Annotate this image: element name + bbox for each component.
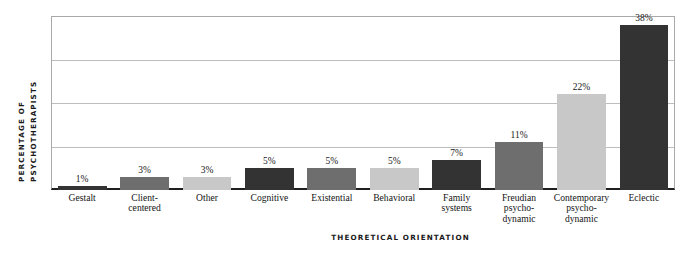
y-axis-title-line-2: PSYCHOTHERAPISTS xyxy=(29,81,38,182)
bars-layer: 1%3%3%5%5%5%7%11%22%38% xyxy=(51,16,675,190)
x-axis-tick-label: Freudianpsycho-dynamic xyxy=(488,193,550,224)
x-axis-tick-label-line: Behavioral xyxy=(364,193,424,203)
bar-group: 5% xyxy=(238,16,300,190)
bar xyxy=(307,168,356,190)
bar-group: 7% xyxy=(425,16,487,190)
x-axis-tick-label-line: Cognitive xyxy=(239,193,299,203)
x-axis-tick-label: Gestalt xyxy=(51,193,113,224)
bar-value-label: 5% xyxy=(301,156,363,167)
bar-group: 5% xyxy=(363,16,425,190)
x-axis-title: THEORETICAL ORIENTATION xyxy=(0,233,693,242)
x-axis-tick-labels: GestaltClient-centeredOtherCognitiveExis… xyxy=(51,193,675,224)
x-axis-tick-label-line: dynamic xyxy=(489,214,549,224)
bar-value-label: 1% xyxy=(51,174,113,185)
y-axis-title: PERCENTAGE OF PSYCHOTHERAPISTS xyxy=(0,0,52,200)
bar-value-label: 3% xyxy=(176,165,238,176)
bar xyxy=(557,94,606,190)
x-axis-tick-label-line: dynamic xyxy=(551,214,611,224)
bar-group: 3% xyxy=(176,16,238,190)
x-axis-tick-label-line: systems xyxy=(426,203,486,213)
bar-group: 1% xyxy=(51,16,113,190)
bar-value-label: 22% xyxy=(550,82,612,93)
bar-group: 11% xyxy=(488,16,550,190)
x-axis-tick-label: Behavioral xyxy=(363,193,425,224)
x-axis-tick-label-line: Gestalt xyxy=(52,193,112,203)
x-axis-tick-label: Cognitive xyxy=(238,193,300,224)
bar xyxy=(120,177,169,190)
bar-value-label: 11% xyxy=(488,130,550,141)
bar-value-label: 5% xyxy=(363,156,425,167)
bar-group: 3% xyxy=(113,16,175,190)
x-axis-tick-label-line: Eclectic xyxy=(614,193,674,203)
x-axis-tick-label: Other xyxy=(176,193,238,224)
bar-value-label: 7% xyxy=(425,148,487,159)
bar xyxy=(432,160,481,190)
y-axis-title-line-1: PERCENTAGE OF xyxy=(17,101,26,182)
bar xyxy=(58,186,107,190)
x-axis-tick-label: Contemporarypsycho-dynamic xyxy=(550,193,612,224)
bar-value-label: 3% xyxy=(113,165,175,176)
bar-chart: PERCENTAGE OF PSYCHOTHERAPISTS 1%3%3%5%5… xyxy=(0,0,693,254)
x-axis-tick-label: Client-centered xyxy=(113,193,175,224)
bar xyxy=(245,168,294,190)
bar-group: 38% xyxy=(613,16,675,190)
x-axis-tick-label-line: centered xyxy=(114,203,174,213)
x-axis-tick-label: Familysystems xyxy=(425,193,487,224)
x-axis-tick-label: Existential xyxy=(301,193,363,224)
x-axis-tick-label-line: Other xyxy=(177,193,237,203)
bar-value-label: 5% xyxy=(238,156,300,167)
x-axis-tick-label-line: Existential xyxy=(302,193,362,203)
bar xyxy=(620,25,669,190)
bar xyxy=(495,142,544,190)
bar-value-label: 38% xyxy=(613,13,675,24)
bar xyxy=(183,177,232,190)
bar-group: 5% xyxy=(301,16,363,190)
bar-group: 22% xyxy=(550,16,612,190)
bar xyxy=(370,168,419,190)
x-axis-tick-label: Eclectic xyxy=(613,193,675,224)
